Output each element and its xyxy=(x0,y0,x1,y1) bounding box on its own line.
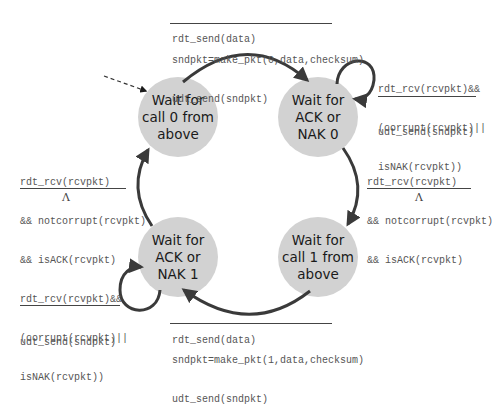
state-label-wait-ack-1: Wait for ACK or NAK 1 xyxy=(138,232,218,283)
action-line: sndpkt=make_pkt(1,data,checksum) xyxy=(172,354,364,367)
transition-actions-call1-to-ack1: sndpkt=make_pkt(1,data,checksum) udt_sen… xyxy=(172,328,364,408)
action-line: udt_send(sndpkt) xyxy=(172,393,364,406)
transition-divider xyxy=(170,323,332,324)
transition-divider xyxy=(20,305,120,306)
transition-actions-ack0-self: udt_send(sndpkt) xyxy=(378,100,474,152)
state-label-wait-call-1: Wait for call 1 from above xyxy=(278,232,358,283)
transition-event-ack0-to-call1: rdt_rcv(rcvpkt) && notcorrupt(rcvpkt) &&… xyxy=(367,150,492,280)
transition-action-lambda: Λ xyxy=(409,191,429,204)
state-label-line: Wait for xyxy=(278,232,358,249)
state-label-line: NAK 0 xyxy=(278,126,358,143)
transition-action-lambda: Λ xyxy=(56,191,76,204)
transition-arrow-ack0-to-call1 xyxy=(343,148,358,224)
action-line: udt_send(sndpkt) xyxy=(378,126,474,139)
initial-state-arrow xyxy=(104,76,146,91)
state-label-line: above xyxy=(278,266,358,283)
state-label-line: call 1 from xyxy=(278,249,358,266)
transition-divider xyxy=(378,96,476,97)
transition-divider xyxy=(367,188,471,189)
action-line: udt_send(sndpkt) xyxy=(20,336,116,349)
transition-divider xyxy=(170,23,332,24)
transition-event-ack1-to-call0: rdt_rcv(rcvpkt) && notcorrupt(rcvpkt) &&… xyxy=(20,150,146,280)
event-line: && isACK(rcvpkt) xyxy=(20,254,146,267)
action-line: udt_send(sndpkt) xyxy=(172,93,364,106)
event-line: && notcorrupt(rcvpkt) xyxy=(367,215,492,228)
event-line: && notcorrupt(rcvpkt) xyxy=(20,215,146,228)
event-line: && isACK(rcvpkt) xyxy=(367,254,492,267)
event-line: rdt_rcv(rcvpkt)&& xyxy=(378,83,486,96)
transition-actions-call0-to-ack0: sndpkt=make_pkt(0,data,checksum) udt_sen… xyxy=(172,28,364,119)
action-line: sndpkt=make_pkt(0,data,checksum) xyxy=(172,54,364,67)
event-line: isNAK(rcvpkt)) xyxy=(20,371,128,384)
state-label-line: ACK or xyxy=(138,249,218,266)
transition-divider xyxy=(20,188,126,189)
state-label-line: Wait for xyxy=(138,232,218,249)
state-label-line: above xyxy=(138,126,218,143)
transition-actions-ack1-self: udt_send(sndpkt) xyxy=(20,310,116,362)
state-label-line: NAK 1 xyxy=(138,266,218,283)
